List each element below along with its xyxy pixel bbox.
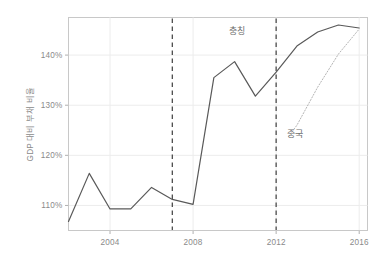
series-label: 충칭 <box>229 26 245 36</box>
x-axis-ticks: 2004200820122016 <box>101 231 369 247</box>
chart-figure: 110%120%130%140% 2004200820122016 충칭중국 G… <box>0 0 385 262</box>
y-tick-label: 130% <box>41 101 63 110</box>
line-chart: 110%120%130%140% 2004200820122016 충칭중국 G… <box>0 0 385 262</box>
y-tick-label: 120% <box>41 151 63 160</box>
plot-panel <box>69 18 368 231</box>
x-tick-label: 2016 <box>350 238 369 247</box>
x-tick-label: 2004 <box>101 238 120 247</box>
y-tick-label: 110% <box>41 201 62 210</box>
y-tick-label: 140% <box>41 51 63 60</box>
x-tick-label: 2008 <box>184 238 203 247</box>
y-axis-ticks: 110%120%130%140% <box>41 51 69 210</box>
series-label: 중국 <box>287 129 303 139</box>
x-tick-label: 2012 <box>267 238 286 247</box>
y-axis-title: GDP 대비 부채 비율 <box>25 87 35 162</box>
